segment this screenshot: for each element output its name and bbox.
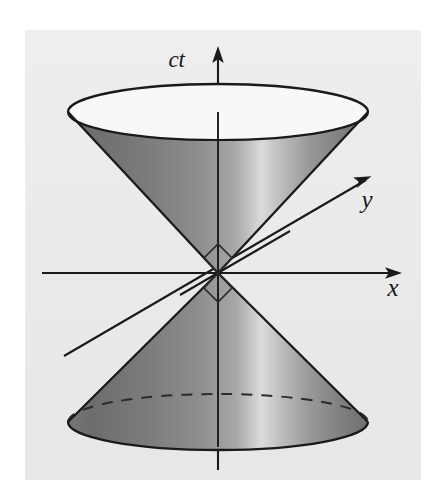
y-axis-label: y [358, 186, 373, 213]
x-axis-label: x [386, 274, 398, 301]
ct-axis-label: ct [168, 47, 185, 72]
lightcone-figure: ct x y [0, 0, 425, 491]
lightcone-svg: ct x y [0, 0, 425, 491]
